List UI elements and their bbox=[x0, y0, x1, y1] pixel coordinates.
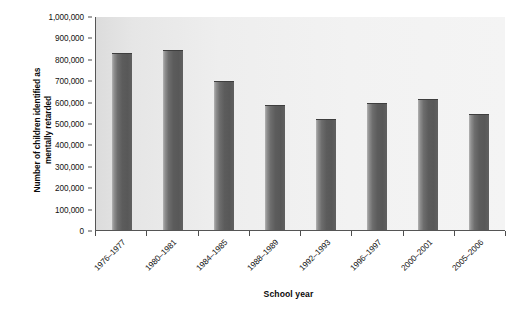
bar-chart-figure: Number of children identified as mentall… bbox=[0, 0, 521, 316]
y-tick-label: 200,000 bbox=[55, 184, 84, 193]
y-tick-mark bbox=[88, 209, 92, 210]
bar-slot bbox=[301, 17, 352, 230]
y-tick-mark bbox=[88, 38, 92, 39]
y-tick-label: 300,000 bbox=[55, 162, 84, 171]
bar-slot bbox=[454, 17, 505, 230]
y-tick-label: 100,000 bbox=[55, 205, 84, 214]
bar[interactable] bbox=[316, 119, 336, 230]
y-tick-label: 400,000 bbox=[55, 141, 84, 150]
y-tick-label: 500,000 bbox=[55, 120, 84, 129]
y-tick-mark bbox=[88, 231, 92, 232]
bar[interactable] bbox=[112, 53, 132, 230]
bar[interactable] bbox=[418, 99, 438, 230]
plot-area bbox=[95, 17, 505, 231]
y-tick-mark bbox=[88, 102, 92, 103]
bar[interactable] bbox=[469, 114, 489, 230]
bar[interactable] bbox=[214, 81, 234, 230]
y-axis-tick-labels: 0100,000200,000300,000400,000500,000600,… bbox=[26, 17, 88, 231]
y-tick-mark bbox=[88, 81, 92, 82]
bar-slot bbox=[403, 17, 454, 230]
y-tick-label: 900,000 bbox=[55, 34, 84, 43]
bar[interactable] bbox=[367, 103, 387, 230]
y-tick-mark bbox=[88, 124, 92, 125]
y-tick-label: 1,000,000 bbox=[48, 13, 84, 22]
bar-slot bbox=[96, 17, 147, 230]
y-tick-label: 800,000 bbox=[55, 55, 84, 64]
bar-slot bbox=[198, 17, 249, 230]
y-tick-mark bbox=[88, 166, 92, 167]
bar-slot bbox=[352, 17, 403, 230]
bar[interactable] bbox=[163, 50, 183, 230]
bar[interactable] bbox=[265, 105, 285, 230]
x-axis-tick-labels: 1976–19771980–19811984–19851988–19891992… bbox=[95, 236, 505, 288]
bar-slot bbox=[249, 17, 300, 230]
y-tick-mark bbox=[88, 188, 92, 189]
x-axis-title: School year bbox=[0, 289, 521, 299]
bar-series bbox=[96, 17, 505, 230]
y-tick-mark bbox=[88, 59, 92, 60]
x-tick-mark bbox=[505, 231, 506, 236]
y-tick-mark bbox=[88, 145, 92, 146]
bar-slot bbox=[147, 17, 198, 230]
y-tick-label: 600,000 bbox=[55, 98, 84, 107]
x-tick-label: 2005–2006 bbox=[395, 238, 486, 316]
y-tick-label: 0 bbox=[80, 227, 84, 236]
y-tick-label: 700,000 bbox=[55, 77, 84, 86]
y-tick-mark bbox=[88, 17, 92, 18]
